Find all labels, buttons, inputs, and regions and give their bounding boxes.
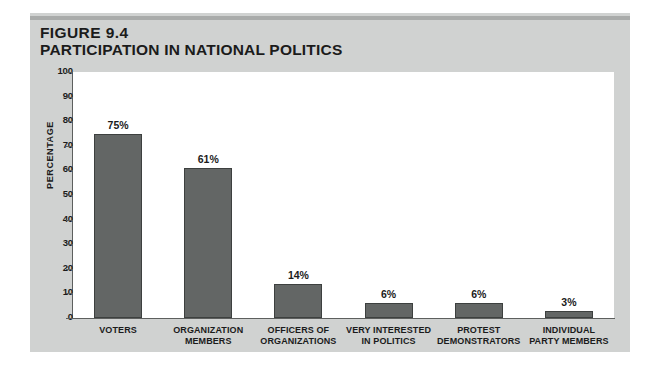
x-category-label-line: OFFICERS OF [253, 325, 343, 336]
x-category-label-line: IN POLITICS [344, 336, 434, 347]
figure-number: FIGURE 9.4 [40, 24, 540, 41]
bar-group: 6% [365, 72, 413, 318]
bar[interactable] [94, 134, 142, 319]
y-tick-label: 30 [39, 237, 73, 248]
title-rule [30, 16, 630, 20]
y-tick-label: 10 [39, 286, 73, 297]
x-category-label: VOTERS [73, 325, 163, 336]
x-category-label-line: MEMBERS [163, 336, 253, 347]
bar-group: 6% [455, 72, 503, 318]
page-title: PARTICIPATION IN NATIONAL POLITICS [40, 41, 540, 58]
x-category-label-line: PARTY MEMBERS [524, 336, 614, 347]
x-category-label: ORGANIZATIONMEMBERS [163, 325, 253, 346]
bar-value-label: 3% [529, 296, 609, 308]
y-tick-mark [66, 269, 73, 270]
bar[interactable] [365, 303, 413, 318]
y-tick-label: 20 [39, 262, 73, 273]
x-category-label-line: ORGANIZATION [163, 325, 253, 336]
figure-title-block: FIGURE 9.4 PARTICIPATION IN NATIONAL POL… [40, 24, 540, 58]
bar-value-label: 14% [258, 269, 338, 281]
x-category-label-line: VOTERS [73, 325, 163, 336]
figure-container: FIGURE 9.4 PARTICIPATION IN NATIONAL POL… [0, 0, 662, 369]
bar[interactable] [455, 303, 503, 318]
y-tick-mark [66, 318, 73, 319]
bar[interactable] [274, 284, 322, 318]
y-tick-mark [66, 146, 73, 147]
y-tick-mark [66, 72, 73, 73]
x-category-label: PROTESTDEMONSTRATORS [434, 325, 524, 346]
bar[interactable] [184, 168, 232, 318]
x-category-label: INDIVIDUALPARTY MEMBERS [524, 325, 614, 346]
x-category-label: VERY INTERESTEDIN POLITICS [344, 325, 434, 346]
y-tick-label: 60 [39, 163, 73, 174]
x-category-label-line: PROTEST [434, 325, 524, 336]
x-category-label-line: VERY INTERESTED [344, 325, 434, 336]
bar-group: 75% [94, 72, 142, 318]
bar-group: 14% [274, 72, 322, 318]
y-tick-mark [66, 244, 73, 245]
x-category-label-line: ORGANIZATIONS [253, 336, 343, 347]
bar-value-label: 6% [349, 288, 429, 300]
x-category-label-line: INDIVIDUAL [524, 325, 614, 336]
y-tick-label: 100 [39, 65, 73, 76]
y-tick-mark [66, 121, 73, 122]
bar-value-label: 61% [168, 153, 248, 165]
y-tick-label: 40 [39, 213, 73, 224]
x-category-label: OFFICERS OFORGANIZATIONS [253, 325, 343, 346]
bar-value-label: 75% [78, 119, 158, 131]
bar-value-label: 6% [439, 288, 519, 300]
y-tick-label: 90 [39, 90, 73, 101]
y-tick-mark [66, 220, 73, 221]
x-axis-line [72, 318, 615, 319]
bar-group: 61% [184, 72, 232, 318]
x-category-label-line: DEMONSTRATORS [434, 336, 524, 347]
y-tick-label: 50 [39, 188, 73, 199]
plot-area [73, 72, 614, 318]
y-tick-mark [66, 293, 73, 294]
bar-group: 3% [545, 72, 593, 318]
y-tick-label: 70 [39, 139, 73, 150]
y-tick-mark [66, 170, 73, 171]
y-tick-mark [66, 195, 73, 196]
bar[interactable] [545, 311, 593, 318]
y-tick-label: 0 [39, 311, 73, 322]
y-tick-mark [66, 97, 73, 98]
y-tick-label: 80 [39, 114, 73, 125]
